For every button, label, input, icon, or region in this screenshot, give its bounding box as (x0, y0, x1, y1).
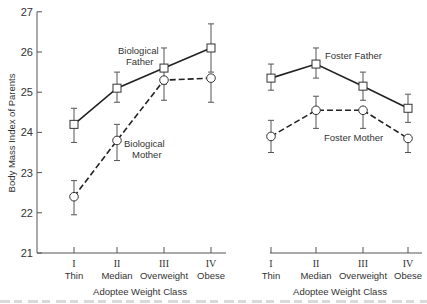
annotation-biological-father-2: Father (126, 56, 153, 67)
y-tick-label: 23 (21, 167, 33, 179)
annotation-biological-father-1: Biological (118, 45, 159, 56)
chart-figure: 21222324252627IThinIIMedianIIIOverweight… (0, 0, 427, 304)
x-axis-label-left: Adoptee Weight Class (93, 286, 187, 297)
square-marker (207, 44, 215, 52)
square-marker (113, 84, 121, 92)
circle-marker (113, 136, 122, 145)
circle-marker (70, 192, 79, 201)
annotation-biological-mother-2: Mother (132, 149, 162, 160)
y-tick-label: 22 (21, 207, 33, 219)
x-tick-roman: IV (403, 258, 414, 269)
square-marker (312, 60, 320, 68)
figure-caption-cropped (0, 297, 427, 304)
x-tick-roman: I (72, 258, 75, 269)
circle-marker (359, 106, 368, 115)
y-tick-label: 21 (21, 247, 33, 259)
circle-marker (160, 76, 169, 85)
caption-text-fragment (0, 300, 427, 303)
y-tick-label: 26 (21, 46, 33, 58)
x-tick-category: Median (101, 270, 132, 281)
x-tick-roman: IV (206, 258, 217, 269)
square-marker (160, 64, 168, 72)
x-tick-roman: II (313, 258, 320, 269)
circle-marker (267, 132, 276, 141)
x-tick-roman: III (159, 258, 169, 269)
circle-marker (404, 134, 413, 143)
foster-parents-panel: IThinIIMedianIIIOverweightIVObese (262, 48, 422, 281)
square-marker (359, 82, 367, 90)
y-axis-label: Body Mass Index of Parents (6, 73, 17, 192)
circle-marker (312, 106, 321, 115)
x-tick-category: Overweight (339, 270, 387, 281)
square-marker (267, 74, 275, 82)
x-axis-label-right: Adoptee Weight Class (293, 286, 387, 297)
y-tick-label: 25 (21, 86, 33, 98)
x-tick-category: Median (300, 270, 331, 281)
x-tick-category: Obese (197, 270, 225, 281)
series-line-foster-father (271, 64, 408, 108)
annotation-biological-mother-1: Biological (124, 138, 165, 149)
annotation-foster-mother: Foster Mother (324, 132, 383, 143)
x-tick-roman: III (358, 258, 368, 269)
x-tick-roman: II (114, 258, 121, 269)
square-marker (404, 104, 412, 112)
x-tick-roman: I (269, 258, 272, 269)
x-tick-category: Overweight (140, 270, 188, 281)
y-tick-label: 27 (21, 6, 33, 18)
x-tick-category: Thin (65, 270, 83, 281)
square-marker (70, 120, 78, 128)
circle-marker (207, 74, 216, 83)
y-tick-label: 24 (21, 126, 33, 138)
annotation-foster-father: Foster Father (325, 50, 382, 61)
x-tick-category: Thin (262, 270, 280, 281)
x-tick-category: Obese (394, 270, 422, 281)
